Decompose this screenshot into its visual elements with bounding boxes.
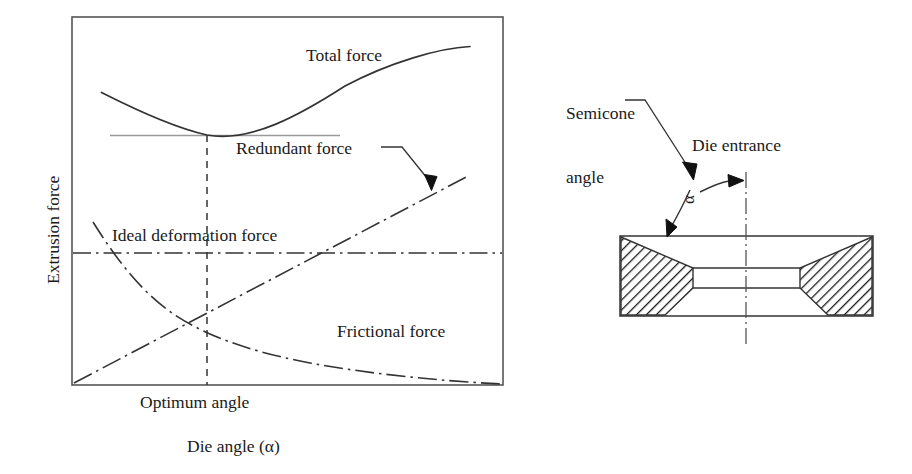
total-force-curve — [102, 47, 471, 137]
redundant-force-arrowhead — [425, 175, 438, 191]
y-axis-label: Extrusion force — [44, 150, 64, 310]
total-force-label: Total force — [306, 46, 382, 66]
redundant-force-leader — [381, 147, 431, 183]
semicone-angle-label: Semicone angle — [566, 60, 635, 231]
die-entrance-label: Die entrance — [692, 136, 781, 156]
alpha-angle-symbol: α — [679, 195, 698, 204]
ideal-deformation-force-label: Ideal deformation force — [112, 226, 277, 246]
angle-arrow-right-head — [728, 175, 744, 188]
optimum-angle-label: Optimum angle — [140, 393, 249, 413]
semicone-angle-label-line1: Semicone — [566, 103, 635, 124]
semicone-angle-label-line2: angle — [566, 167, 635, 188]
frictional-force-curve — [93, 222, 502, 384]
angle-arrow-left-head — [666, 219, 677, 237]
x-axis-label: Die angle (α) — [187, 437, 280, 457]
frictional-force-label: Frictional force — [337, 322, 445, 342]
semicone-angle-arrowhead — [683, 162, 698, 180]
extrusion-force-figure: Total force Redundant force Ideal deform… — [0, 0, 912, 474]
angle-arrow-right — [700, 181, 729, 192]
redundant-force-label: Redundant force — [236, 139, 352, 159]
